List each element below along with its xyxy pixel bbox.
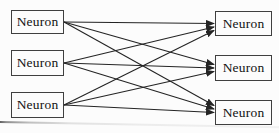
neuron-box-right-2: Neuron bbox=[215, 55, 272, 81]
neural-network-diagram: Neuron Neuron Neuron Neuron Neuron Neuro… bbox=[0, 0, 279, 133]
edge-L3-R3 bbox=[64, 105, 214, 113]
neuron-box-right-1: Neuron bbox=[215, 11, 272, 36]
edge-L2-R3 bbox=[64, 63, 214, 109]
neuron-box-left-1: Neuron bbox=[11, 10, 64, 34]
edge-L1-R1 bbox=[64, 22, 214, 24]
neuron-box-right-3: Neuron bbox=[215, 100, 272, 125]
neuron-box-left-3: Neuron bbox=[11, 92, 64, 118]
neuron-box-left-2: Neuron bbox=[11, 50, 64, 76]
edge-L3-R2 bbox=[64, 72, 214, 106]
